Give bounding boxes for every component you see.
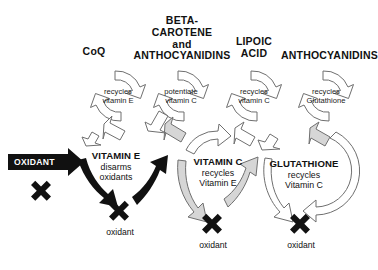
block-glutathione-line3: Vitamin C bbox=[258, 180, 350, 191]
heading-lipoic-acid-line2: ACID bbox=[229, 48, 279, 60]
connector-lipoic-to-vitamin-c bbox=[234, 122, 255, 146]
vitamin-e-inlet-arrow bbox=[82, 132, 101, 146]
block-vitamin-c-line3: Vitamin E bbox=[180, 178, 256, 189]
heading-anthocyanidins: ANTHOCYANIDINS bbox=[281, 50, 377, 61]
cycle-text-beta-carotene: potentiate vitamin C bbox=[155, 88, 207, 106]
x-mark-oxidant-3 bbox=[290, 214, 310, 234]
heading-coq: CoQ bbox=[72, 46, 116, 57]
cycle-text-lipoic-acid-line2: vitamin C bbox=[229, 97, 279, 106]
heading-beta-carotene-line2: CAROTENE bbox=[132, 27, 232, 39]
cycle-text-beta-carotene-line2: vitamin C bbox=[155, 97, 207, 106]
cycle-text-anthocyanidins-line2: Glutathione bbox=[298, 97, 354, 106]
cycle-text-coq: recycles vitamin E bbox=[94, 88, 142, 106]
heading-beta-carotene-line4: ANTHOCYANIDINS bbox=[132, 50, 232, 62]
block-vitamin-c-line2: recycles bbox=[180, 168, 256, 179]
block-glutathione-line2: recycles bbox=[258, 170, 350, 181]
block-vitamin-e-line3: oxidants bbox=[78, 172, 154, 183]
heading-lipoic-acid: LIPOIC ACID bbox=[229, 36, 279, 60]
x-mark-oxidant-1 bbox=[109, 201, 129, 221]
x-mark-oxidant-input bbox=[31, 181, 51, 201]
oxidant-label-1: oxidant bbox=[94, 228, 146, 237]
oxidant-label-3: oxidant bbox=[275, 241, 327, 250]
cycle-text-anthocyanidins: recycles Glutathione bbox=[298, 88, 354, 106]
block-glutathione: GLUTATHIONE recycles Vitamin C bbox=[258, 158, 350, 191]
connector-anthocyanidins-to-glutathione bbox=[309, 122, 330, 146]
cycle-text-lipoic-acid: recycles vitamin C bbox=[229, 88, 279, 106]
cycle-text-coq-line2: vitamin E bbox=[94, 97, 142, 106]
oxidant-label-2: oxidant bbox=[187, 241, 239, 250]
block-vitamin-c: VITAMIN C recycles Vitamin E bbox=[180, 156, 256, 189]
block-vitamin-e-line2: disarms bbox=[78, 162, 154, 173]
block-vitamin-e-name: VITAMIN E bbox=[78, 150, 154, 162]
block-vitamin-c-name: VITAMIN C bbox=[180, 156, 256, 168]
heading-lipoic-acid-line1: LIPOIC bbox=[229, 36, 279, 48]
antioxidant-network-diagram: CoQ BETA- CAROTENE and ANTHOCYANIDINS LI… bbox=[0, 0, 378, 270]
heading-beta-carotene: BETA- CAROTENE and ANTHOCYANIDINS bbox=[132, 15, 232, 62]
block-vitamin-e: VITAMIN E disarms oxidants bbox=[78, 150, 154, 183]
oxidant-banner-label: OXIDANT bbox=[14, 157, 55, 167]
heading-beta-carotene-line1: BETA- bbox=[132, 15, 232, 27]
block-glutathione-name: GLUTATHIONE bbox=[258, 158, 350, 170]
x-mark-oxidant-2 bbox=[202, 214, 222, 234]
